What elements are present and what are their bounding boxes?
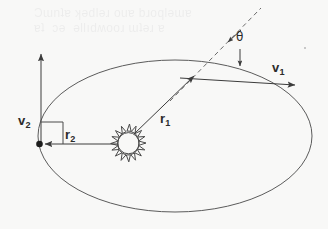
right-angle-marker [41,122,63,144]
v1-vector [180,78,295,85]
label-v2: v2 [18,114,30,127]
sun-icon [111,124,146,162]
dashed-reference-line [170,8,261,101]
label-r2: r2 [65,128,75,141]
orbital-geometry-diagram: Ɔɯnʇɐ ʞǝdlǝɹ ouɐ bɹoqlǝɯɐ ɐʇ ɔǝ ǝllıdʍoo… [0,0,328,229]
orbit-ellipse [38,60,312,212]
label-v1: v1 [272,61,284,74]
label-theta: θ [236,31,243,43]
label-r1: r1 [160,112,170,125]
orbit-point-marker [36,141,43,148]
scan-speck [304,47,306,49]
